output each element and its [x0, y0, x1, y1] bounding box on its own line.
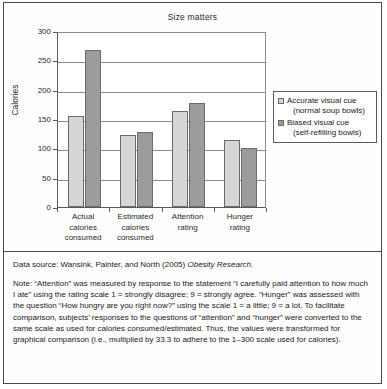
bar-0-1 [120, 135, 136, 207]
legend-label-series-0-line2: (normal soup bowls) [287, 106, 365, 116]
chart-legend: Accurate visual cue (normal soup bowls) … [273, 91, 377, 143]
bar-1-2 [189, 103, 205, 207]
bar-0-0 [68, 116, 84, 207]
legend-swatch-icon-series-0 [278, 98, 284, 104]
y-tick-label-50: 50 [11, 175, 51, 183]
legend-label-series-1-line1: Biased visual cue [287, 118, 349, 127]
legend-label-series-0-line1: Accurate visual cue [287, 96, 356, 105]
y-tick-label-100: 100 [11, 145, 51, 153]
y-tick-label-150: 150 [11, 116, 51, 124]
bar-1-3 [241, 148, 257, 207]
note-text: Note: “Attention” was measured by respon… [13, 278, 372, 345]
x-label-1-line2: consumed [103, 233, 167, 244]
bar-1-1 [137, 132, 153, 207]
x-label-3-line0: Hunger [208, 212, 272, 223]
legend-label-series-1: Biased visual cue (self-refilling bowls) [287, 118, 361, 138]
bar-0-3 [224, 140, 240, 207]
data-source-prefix: Data source: Wansink, Painter, and North… [13, 260, 187, 269]
legend-label-series-1-line2: (self-refilling bowls) [287, 128, 361, 138]
data-source-journal: Obesity Research. [187, 260, 253, 269]
legend-item-accurate-visual-cue[interactable]: Accurate visual cue (normal soup bowls) [278, 96, 372, 116]
bar-1-0 [85, 50, 101, 207]
data-source-line: Data source: Wansink, Painter, and North… [13, 259, 372, 270]
chart-region: Size matters Calories 050100150200250300… [4, 3, 381, 251]
legend-item-biased-visual-cue[interactable]: Biased visual cue (self-refilling bowls) [278, 118, 372, 138]
plot-area [57, 32, 266, 208]
x-category-label-3: Hungerrating [208, 212, 272, 233]
y-axis-title: Calories [10, 65, 20, 135]
y-tick-label-250: 250 [11, 57, 51, 65]
bar-0-2 [172, 111, 188, 207]
y-tick-label-200: 200 [11, 87, 51, 95]
notes-region: Data source: Wansink, Painter, and North… [4, 252, 381, 345]
y-tick-label-300: 300 [11, 28, 51, 36]
legend-label-series-0: Accurate visual cue (normal soup bowls) [287, 96, 365, 116]
chart-title: Size matters [4, 12, 381, 22]
figure-frame: Size matters Calories 050100150200250300… [3, 2, 382, 384]
x-label-3-line1: rating [208, 223, 272, 234]
y-tick-label-0: 0 [11, 204, 51, 212]
legend-swatch-icon-series-1 [278, 120, 284, 126]
